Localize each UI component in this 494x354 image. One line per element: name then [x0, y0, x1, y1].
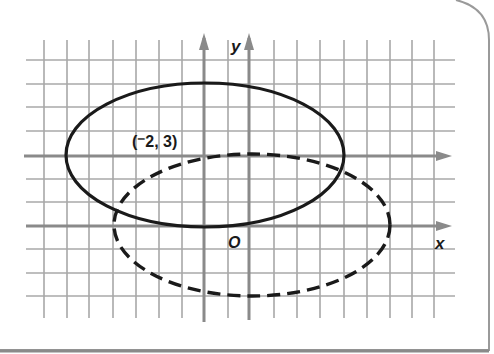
y-axis-label: y	[230, 37, 242, 56]
origin-label: O	[228, 234, 241, 251]
x-axis-label: x	[434, 234, 446, 253]
translated-axes	[24, 38, 440, 322]
point-label: (⁻2, 3)	[132, 133, 177, 150]
y-axis-arrow-icon	[244, 33, 254, 50]
translated-x-axis-arrow-icon	[436, 151, 452, 161]
translated-y-axis-arrow-icon	[199, 33, 209, 50]
card-frame	[0, 0, 489, 350]
x-axis-arrow-icon	[436, 221, 452, 231]
coordinate-graph: y x O (⁻2, 3)	[0, 0, 494, 354]
